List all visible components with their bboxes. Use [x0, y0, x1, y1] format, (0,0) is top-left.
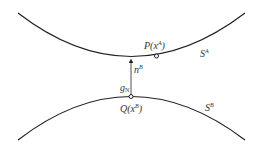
point-p-label: P(xA) [143, 40, 166, 52]
surface-b-label: SB [205, 102, 214, 113]
point-p-marker [155, 54, 159, 58]
contact-diagram: P(xA) SA nB gN Q(xB) SB [0, 0, 255, 151]
point-q-label: Q(xB) [120, 103, 143, 115]
surface-a-label: SA [200, 48, 209, 59]
gap-label: gN [120, 82, 130, 93]
surface-a-curve [18, 13, 245, 57]
point-q-marker [129, 95, 133, 99]
normal-label: nB [134, 64, 143, 75]
